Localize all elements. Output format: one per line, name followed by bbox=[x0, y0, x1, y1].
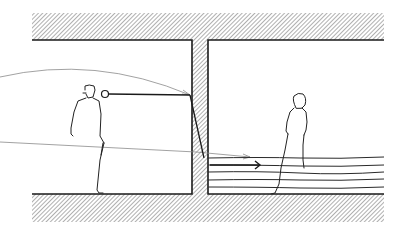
right-figure bbox=[271, 93, 307, 194]
right-room-outline bbox=[208, 40, 384, 194]
sight-line-lower bbox=[0, 142, 250, 159]
ceiling-slab bbox=[32, 13, 384, 40]
left-room-outline bbox=[32, 40, 192, 194]
left-figure bbox=[71, 85, 104, 193]
floor-lines bbox=[208, 157, 384, 188]
architectural-sketch bbox=[0, 0, 402, 241]
floor-slab bbox=[32, 194, 384, 222]
arrow-icon bbox=[210, 161, 260, 169]
